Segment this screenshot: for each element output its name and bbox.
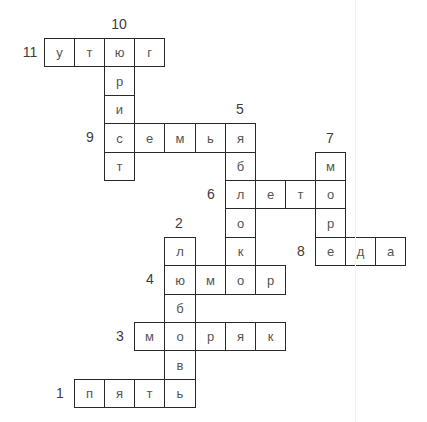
crossword-cell[interactable]: е <box>315 237 346 266</box>
crossword-cell[interactable]: к <box>255 322 286 351</box>
crossword-cell[interactable]: п <box>74 379 105 408</box>
clue-number-6: 6 <box>199 184 223 204</box>
crossword-cell[interactable]: т <box>74 38 105 67</box>
crossword-cell[interactable]: е <box>255 180 286 209</box>
clue-number-5: 5 <box>228 99 252 119</box>
crossword-cell[interactable]: г <box>134 38 165 67</box>
crossword-cell[interactable]: а <box>375 237 406 266</box>
crossword-cell[interactable]: е <box>134 123 165 153</box>
crossword-cell[interactable]: р <box>255 265 286 295</box>
divider-line <box>355 0 356 422</box>
crossword-cell[interactable]: р <box>315 208 346 238</box>
crossword-cell[interactable]: м <box>134 322 165 351</box>
crossword-cell[interactable]: ь <box>195 123 226 153</box>
clue-number-8: 8 <box>289 241 313 261</box>
clue-number-4: 4 <box>138 269 162 289</box>
crossword-cell[interactable]: ю <box>104 38 135 67</box>
crossword-cell[interactable]: т <box>134 379 165 408</box>
crossword-cell[interactable]: р <box>104 66 135 96</box>
crossword-cell[interactable]: д <box>345 237 376 266</box>
crossword-cell[interactable]: я <box>225 123 256 153</box>
crossword-cell[interactable]: я <box>104 379 135 408</box>
crossword-cell[interactable]: с <box>104 123 135 153</box>
clue-number-7: 7 <box>318 128 342 148</box>
crossword-cell[interactable]: к <box>225 237 256 266</box>
crossword-cell[interactable]: и <box>104 95 135 124</box>
crossword-cell[interactable]: ю <box>164 265 196 295</box>
clue-number-3: 3 <box>108 326 132 346</box>
crossword-cell[interactable]: о <box>225 265 256 295</box>
clue-number-11: 11 <box>18 42 42 62</box>
clue-number-1: 1 <box>48 383 72 403</box>
crossword-cell[interactable]: б <box>225 152 256 181</box>
crossword-cell[interactable]: р <box>195 322 226 351</box>
clue-number-9: 9 <box>78 127 102 147</box>
clue-number-10: 10 <box>107 14 131 34</box>
crossword-cell[interactable]: ь <box>164 379 196 408</box>
crossword-cell[interactable]: т <box>104 152 135 181</box>
crossword-cell[interactable]: б <box>164 294 196 323</box>
crossword-cell[interactable]: в <box>164 350 196 380</box>
crossword-cell[interactable]: л <box>164 237 196 266</box>
crossword-board: пять1любов2мряк3мор4яблок5ето6мре7да8сем… <box>0 0 427 422</box>
crossword-cell[interactable]: т <box>285 180 316 209</box>
crossword-cell[interactable]: у <box>44 38 75 67</box>
crossword-cell[interactable]: о <box>315 180 346 209</box>
crossword-cell[interactable]: м <box>195 265 226 295</box>
crossword-cell[interactable]: я <box>225 322 256 351</box>
crossword-cell[interactable]: м <box>164 123 196 153</box>
crossword-cell[interactable]: м <box>315 152 346 181</box>
crossword-cell[interactable]: л <box>225 180 256 209</box>
crossword-cell[interactable]: о <box>225 208 256 238</box>
crossword-cell[interactable]: о <box>164 322 196 351</box>
clue-number-2: 2 <box>167 213 191 233</box>
